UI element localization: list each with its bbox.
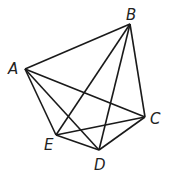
edge-ac <box>25 69 145 117</box>
edges <box>25 24 145 150</box>
edge-bc <box>130 24 145 117</box>
geometry-diagram: A B C D E <box>0 0 171 179</box>
label-e: E <box>44 136 54 154</box>
label-c: C <box>150 110 161 128</box>
label-b: B <box>126 6 136 24</box>
label-a: A <box>7 60 18 78</box>
vertex-labels: A B C D E <box>7 6 161 174</box>
label-d: D <box>94 156 106 174</box>
